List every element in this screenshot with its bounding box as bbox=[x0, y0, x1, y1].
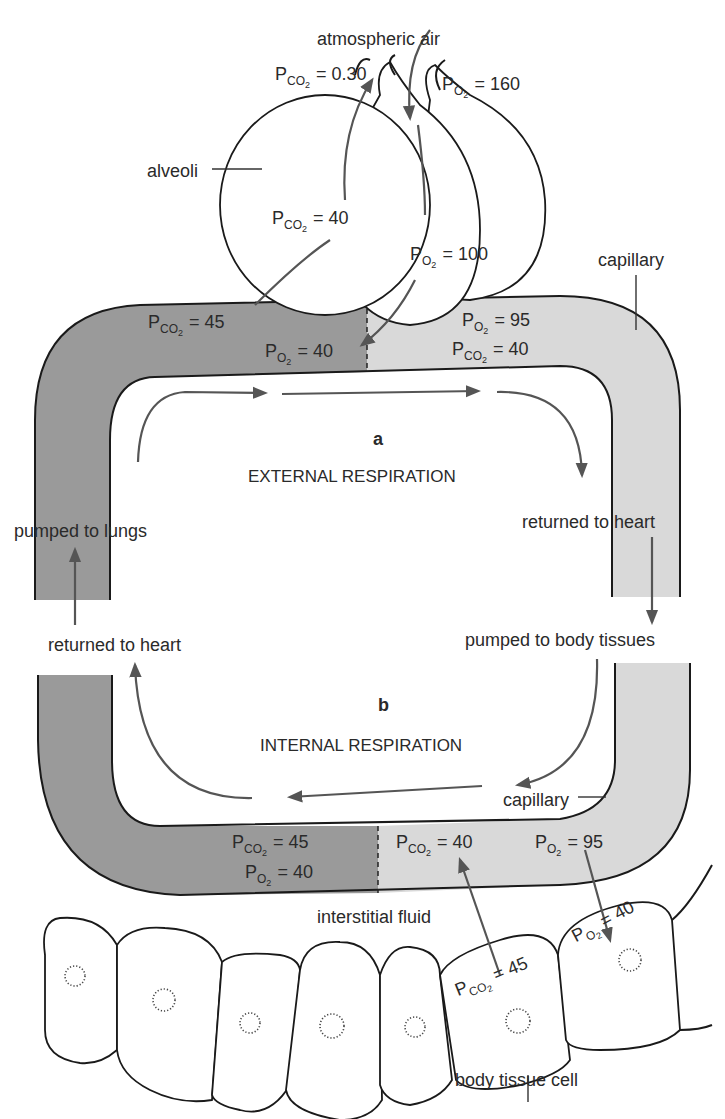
flow-arrow-down-right bbox=[497, 392, 582, 475]
systemic-capillary bbox=[38, 663, 690, 895]
systemic-capillary-deoxygenated bbox=[38, 675, 378, 895]
diagram-canvas: atmospheric air alveoli capillary a EXTE… bbox=[0, 0, 725, 1119]
pressure-atm-po2: PO2= 160 bbox=[442, 74, 520, 100]
body-tissue-cells bbox=[44, 865, 712, 1119]
flow-arrow-top bbox=[282, 391, 478, 394]
alveolus-left bbox=[220, 95, 430, 315]
label-internal-letter: b bbox=[378, 695, 389, 715]
label-alveoli: alveoli bbox=[147, 161, 198, 181]
label-atmospheric-air: atmospheric air bbox=[317, 29, 440, 49]
label-returned-to-heart-left: returned to heart bbox=[48, 635, 181, 655]
svg-text:PO2= 160: PO2= 160 bbox=[442, 74, 520, 100]
flow-arrow-down-to-capillary bbox=[518, 659, 597, 785]
label-external-respiration: EXTERNAL RESPIRATION bbox=[248, 467, 456, 486]
label-capillary-top: capillary bbox=[598, 250, 664, 270]
label-returned-to-heart-right: returned to heart bbox=[522, 512, 655, 532]
flow-arrow-up-left bbox=[138, 392, 265, 462]
pulmonary-capillary bbox=[35, 296, 680, 600]
alveoli-cluster bbox=[220, 55, 545, 325]
label-internal-respiration: INTERNAL RESPIRATION bbox=[260, 736, 462, 755]
svg-text:PCO2= 0.30: PCO2= 0.30 bbox=[275, 64, 367, 90]
label-pumped-to-lungs: pumped to lungs bbox=[14, 521, 147, 541]
label-capillary-bottom: capillary bbox=[503, 790, 569, 810]
label-body-tissue-cell: body tissue cell bbox=[455, 1070, 578, 1090]
label-pumped-to-body-tissues: pumped to body tissues bbox=[465, 630, 655, 650]
label-interstitial-fluid: interstitial fluid bbox=[317, 907, 431, 927]
systemic-capillary-oxygenated bbox=[378, 663, 690, 893]
flow-arrow-up-to-heart bbox=[135, 665, 252, 798]
flow-arrow-bottom bbox=[290, 786, 482, 797]
pressure-atm-pco2: PCO2= 0.30 bbox=[275, 64, 367, 90]
respiration-diagram: atmospheric air alveoli capillary a EXTE… bbox=[0, 0, 725, 1119]
label-external-letter: a bbox=[373, 429, 384, 449]
